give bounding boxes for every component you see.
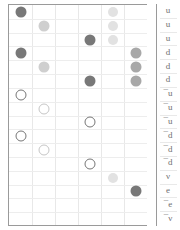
particle-label: d	[157, 60, 179, 73]
data-point-filled	[108, 173, 118, 183]
data-point-filled	[130, 186, 141, 197]
particle-label: ¯ν	[157, 212, 179, 225]
data-point-filled	[84, 75, 95, 86]
particle-label: ¯u	[157, 101, 179, 114]
particle-label: d	[157, 73, 179, 86]
label-panel: uuuddd¯u¯u¯u¯d¯d¯dνe¯e¯ν	[156, 4, 180, 226]
particle-label: ¯d	[157, 129, 179, 142]
data-point-filled	[38, 20, 49, 31]
particle-matrix-figure: uuuddd¯u¯u¯u¯d¯d¯dνe¯e¯ν	[0, 0, 180, 230]
data-point-hollow	[38, 103, 49, 114]
particle-label: ¯e	[157, 198, 179, 211]
data-point-filled	[15, 6, 26, 17]
matrix-panel	[8, 4, 147, 226]
data-point-filled	[84, 34, 95, 45]
data-point-filled	[130, 48, 141, 59]
data-point-filled	[15, 48, 26, 59]
particle-label: ¯u	[157, 115, 179, 128]
particle-label: e	[157, 184, 179, 197]
data-point-hollow	[15, 89, 26, 100]
particle-label: u	[157, 32, 179, 45]
data-point-filled	[38, 62, 49, 73]
particle-label: d	[157, 46, 179, 59]
dots-layer	[9, 5, 147, 225]
particle-label: ν	[157, 170, 179, 183]
data-point-filled	[108, 35, 118, 45]
data-point-hollow	[38, 145, 49, 156]
data-point-hollow	[84, 117, 95, 128]
data-point-filled	[108, 21, 118, 31]
data-point-filled	[130, 62, 141, 73]
particle-label: ¯u	[157, 87, 179, 100]
particle-label: ¯d	[157, 156, 179, 169]
particle-label: ¯d	[157, 143, 179, 156]
data-point-filled	[130, 75, 141, 86]
particle-label: u	[157, 4, 179, 17]
data-point-filled	[108, 7, 118, 17]
data-point-hollow	[15, 131, 26, 142]
data-point-hollow	[84, 158, 95, 169]
particle-label: u	[157, 18, 179, 31]
